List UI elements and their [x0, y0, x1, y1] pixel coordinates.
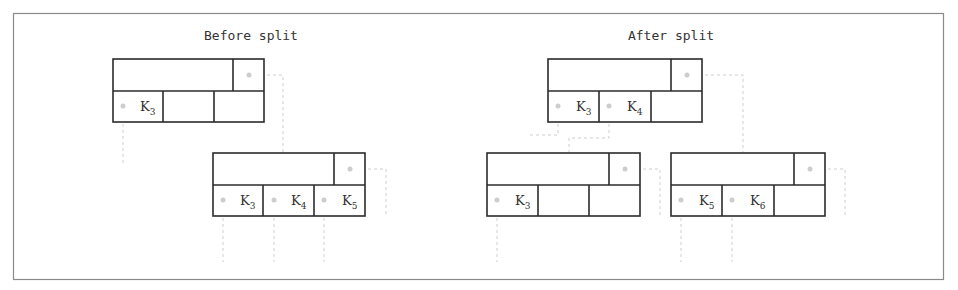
btree-node-leaf-before: K3 K4 K5 — [213, 153, 365, 216]
pointer-dot — [623, 167, 628, 172]
btree-node-parent-after: K3 K4 — [548, 59, 702, 122]
pointer-dot — [247, 73, 252, 78]
panel-before-split: Before split K3 — [113, 28, 386, 262]
panel-title-before: Before split — [204, 28, 298, 43]
pointer-dot — [808, 167, 813, 172]
pointer-dot — [322, 198, 327, 203]
pointer-dot — [730, 198, 735, 203]
btree-node-left-leaf-after: K3 — [487, 153, 640, 216]
btree-node-parent-before: K3 — [113, 59, 264, 122]
pointer-dot — [607, 104, 612, 109]
btree-split-diagram: Before split K3 — [0, 0, 958, 290]
pointer-dot — [272, 198, 277, 203]
pointer-dot — [679, 198, 684, 203]
pointer-dot — [348, 167, 353, 172]
panel-title-after: After split — [628, 28, 714, 43]
pointer-dot — [495, 198, 500, 203]
diagram-frame — [14, 14, 944, 280]
btree-node-right-leaf-after: K5 K6 — [671, 153, 825, 216]
pointer-dot — [556, 104, 561, 109]
pointer-dot — [221, 198, 226, 203]
pointer-dot — [685, 73, 690, 78]
pointer-dot — [121, 104, 126, 109]
panel-after-split: After split K3 K4 — [487, 28, 845, 262]
